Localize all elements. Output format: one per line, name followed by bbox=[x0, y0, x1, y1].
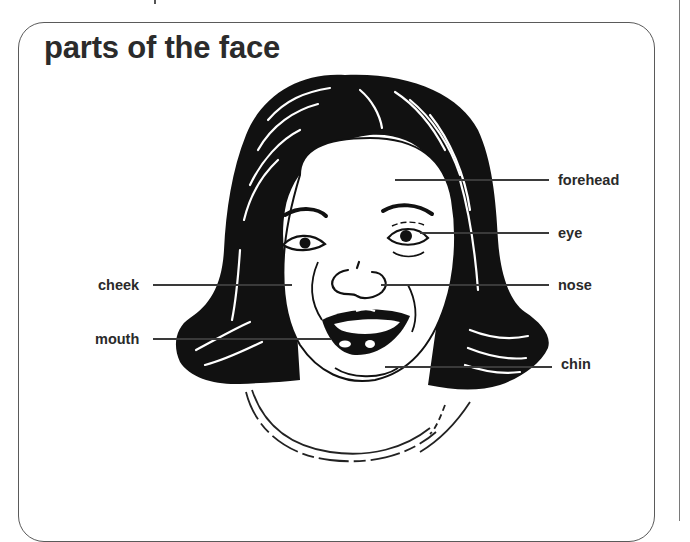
label-forehead: forehead bbox=[558, 172, 619, 188]
forehead-leader-line bbox=[395, 179, 549, 181]
mouth-leader-line bbox=[153, 338, 331, 340]
label-nose: nose bbox=[558, 277, 592, 293]
cheek-leader-line bbox=[153, 284, 292, 286]
eye-leader-line bbox=[420, 232, 549, 234]
neck-illustration bbox=[246, 390, 470, 461]
chin-leader-line bbox=[385, 366, 552, 368]
label-chin: chin bbox=[561, 356, 591, 372]
label-mouth: mouth bbox=[95, 331, 139, 347]
label-eye: eye bbox=[558, 225, 582, 241]
nose-leader-line bbox=[381, 284, 549, 286]
label-cheek: cheek bbox=[98, 277, 139, 293]
